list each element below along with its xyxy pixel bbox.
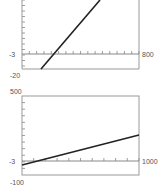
plot-2-frame: [22, 96, 139, 175]
charts-canvas: [0, 0, 166, 196]
plot-2-ymin-label: -100: [10, 179, 24, 186]
plot-1-frame: [22, 0, 139, 69]
plot-2-xmin-label: -3: [9, 158, 15, 165]
plot-2-ymax-label: 500: [10, 88, 22, 95]
plot-1-xmin-label: -3: [9, 51, 15, 58]
plot-2: [22, 96, 139, 175]
plot-1-line: [41, 0, 100, 69]
plot-1: [22, 0, 139, 69]
plot-2-xmax-label: 1000: [142, 158, 158, 165]
plot-1-ymin-label: -20: [10, 72, 20, 79]
plot-1-xmax-label: 800: [142, 51, 154, 58]
